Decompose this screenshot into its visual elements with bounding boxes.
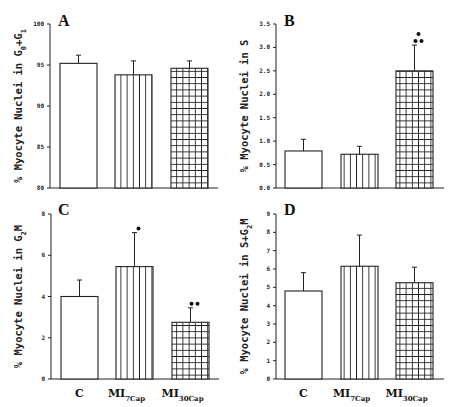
bar-c xyxy=(285,151,322,188)
y-tick-label: 2.5 xyxy=(259,67,270,74)
y-tick-label: 2.0 xyxy=(259,90,270,97)
significance-marker xyxy=(414,39,418,43)
y-axis-title: % Myocyte Nuclei in G0+G1 xyxy=(12,29,28,183)
significance-marker xyxy=(196,302,200,306)
bar-c xyxy=(285,291,322,379)
y-tick-label: 9 xyxy=(266,210,270,217)
x-category-label: C xyxy=(299,387,308,400)
panel-label: C xyxy=(58,201,70,218)
bar-c xyxy=(61,297,98,380)
y-tick-label: 1 xyxy=(266,357,270,364)
y-tick-label: 0 xyxy=(266,375,270,382)
bar-c xyxy=(60,63,97,188)
bar-mi30cap xyxy=(172,322,209,379)
bar-mi7cap xyxy=(116,267,153,379)
y-axis-title: % Myocyte Nuclei in G2M xyxy=(12,225,28,368)
y-tick-label: 4 xyxy=(41,293,45,300)
panel-label: D xyxy=(284,201,296,218)
y-tick-label: 85 xyxy=(37,143,45,150)
y-tick-label: 7 xyxy=(266,247,270,254)
y-tick-label: 1.0 xyxy=(259,137,270,144)
y-tick-label: 4 xyxy=(266,302,270,309)
y-tick-label: 8 xyxy=(41,210,45,217)
significance-marker xyxy=(420,39,424,43)
x-category-label: MI7Cap xyxy=(108,387,145,403)
y-tick-label: 0.0 xyxy=(259,184,270,191)
significance-marker xyxy=(417,32,421,36)
y-tick-label: 100 xyxy=(33,20,44,27)
y-tick-label: 3.5 xyxy=(259,20,270,27)
y-tick-label: 80 xyxy=(37,184,45,191)
panel-c: 02468C% Myocyte Nuclei in G2MCMI7CapMI30… xyxy=(12,201,219,403)
bar-mi30cap xyxy=(396,71,433,188)
panel-d: 0123456789D% Myocyte Nuclei in S+G2MCMI7… xyxy=(238,201,444,403)
y-tick-label: 6 xyxy=(41,251,45,258)
y-tick-label: 90 xyxy=(37,102,45,109)
panel-label: B xyxy=(284,12,295,29)
bar-mi7cap xyxy=(341,154,378,188)
y-axis-title: % Myocyte Nuclei in S xyxy=(238,40,250,173)
y-tick-label: 0.5 xyxy=(259,161,270,168)
x-category-label: MI30Cap xyxy=(385,387,427,403)
x-category-label: MI30Cap xyxy=(161,387,203,403)
y-tick-label: 2 xyxy=(266,338,270,345)
figure-four-panel-bar-chart: 80859095100A% Myocyte Nuclei in G0+G10.0… xyxy=(0,0,452,407)
bar-mi30cap xyxy=(171,68,208,188)
y-tick-label: 2 xyxy=(41,334,45,341)
bar-mi7cap xyxy=(115,75,152,188)
y-tick-label: 0 xyxy=(41,375,45,382)
x-category-label: C xyxy=(75,387,84,400)
y-tick-label: 1.5 xyxy=(259,114,270,121)
y-tick-label: 6 xyxy=(266,265,270,272)
y-tick-label: 8 xyxy=(266,228,270,235)
significance-marker xyxy=(190,302,194,306)
y-tick-label: 95 xyxy=(37,61,45,68)
x-category-label: MI7Cap xyxy=(333,387,370,403)
bar-mi30cap xyxy=(396,283,433,379)
y-tick-label: 5 xyxy=(266,283,270,290)
significance-marker xyxy=(137,227,141,231)
panel-b: 0.00.51.01.52.02.53.03.5B% Myocyte Nucle… xyxy=(238,12,444,191)
y-axis-title: % Myocyte Nuclei in S+G2M xyxy=(238,219,254,375)
bar-mi7cap xyxy=(341,266,378,379)
panel-label: A xyxy=(58,12,70,29)
panel-a: 80859095100A% Myocyte Nuclei in G0+G1 xyxy=(12,12,218,191)
y-tick-label: 3 xyxy=(266,320,270,327)
y-tick-label: 3.0 xyxy=(259,43,270,50)
